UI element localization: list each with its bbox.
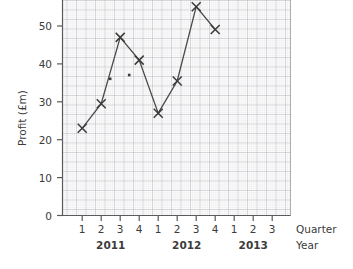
- x-tick-label-q1-2011: 1: [79, 223, 86, 235]
- moving-average-dot: [109, 78, 112, 81]
- y-tick-label-30: 30: [39, 96, 52, 108]
- x-axis-caption-year: Year: [295, 239, 319, 251]
- y-tick-label-0: 0: [45, 210, 52, 222]
- x-tick-label-q3-2011: 3: [117, 223, 124, 235]
- y-tick-label-20: 20: [39, 134, 52, 146]
- x-tick-label-q3-2012: 3: [193, 223, 200, 235]
- y-tick-label-40: 40: [39, 58, 52, 70]
- x-tick-label-q1-2013: 1: [231, 223, 238, 235]
- year-label-2012: 2012: [172, 239, 201, 251]
- x-tick-label-q2-2011: 2: [98, 223, 105, 235]
- x-axis-caption-quarter: Quarter: [296, 223, 337, 235]
- year-label-2011: 2011: [96, 239, 125, 251]
- x-axis-quarter-labels: 1 2 3 4 1 2 3 4 1 2 3: [79, 223, 276, 235]
- x-tick-label-q1-2012: 1: [155, 223, 162, 235]
- year-label-2013: 2013: [239, 239, 268, 251]
- y-tick-label-10: 10: [39, 172, 52, 184]
- x-tick-label-q4-2011: 4: [136, 223, 143, 235]
- y-axis-tick-labels: 0 10 20 30 40 50: [39, 20, 52, 222]
- profit-time-series-chart: 0 10 20 30 40 50 Profit (£m) 1 2: [0, 0, 353, 269]
- x-axis-ticks: [82, 216, 272, 222]
- x-tick-label-q2-2013: 2: [250, 223, 257, 235]
- x-tick-label-q2-2012: 2: [174, 223, 181, 235]
- x-tick-label-q4-2012: 4: [212, 223, 219, 235]
- moving-average-dot: [128, 74, 131, 77]
- y-axis-title: Profit (£m): [16, 90, 28, 146]
- chart-svg: 0 10 20 30 40 50 Profit (£m) 1 2: [0, 0, 353, 269]
- x-axis-year-labels: 2011 2012 2013: [96, 239, 268, 251]
- y-axis-ticks: [57, 26, 63, 216]
- y-tick-label-50: 50: [39, 20, 52, 32]
- x-tick-label-q3-2013: 3: [269, 223, 276, 235]
